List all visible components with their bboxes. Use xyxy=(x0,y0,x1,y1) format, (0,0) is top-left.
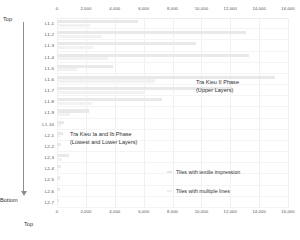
x-axis-tick-label: 0 xyxy=(56,209,58,214)
x-axis-tick-label: 8,000 xyxy=(167,6,178,11)
annotation-lower-phase: Tra Kieu Ia and Ib Phase (Lowest and Low… xyxy=(70,130,137,147)
x-axis-title: Top xyxy=(24,221,33,227)
y-axis-label-l2-7: L2-7 xyxy=(30,200,54,205)
gridline xyxy=(288,18,289,208)
y-axis-label-l1-9: L1-9 xyxy=(30,110,54,115)
bar-segment xyxy=(57,35,102,38)
bar-row xyxy=(57,197,288,208)
x-axis-tick-label: 10,000 xyxy=(195,6,208,11)
bar-segment xyxy=(57,180,58,183)
x-axis-bottom: 02,0004,0006,0008,00010,00012,00014,0001… xyxy=(57,209,288,219)
depth-arrow-icon xyxy=(23,22,24,192)
annotation-lower-line1: Tra Kieu Ia and Ib Phase xyxy=(70,130,137,138)
bar-row xyxy=(57,52,288,63)
x-axis-tick-label: 16,000 xyxy=(281,6,294,11)
plot-area xyxy=(57,18,288,208)
legend-label: Tiles with multiple lines xyxy=(176,188,230,194)
legend-swatch-icon xyxy=(167,171,172,173)
legend-item-textile-impression[interactable]: Tiles with textile impression xyxy=(167,169,240,175)
bar-segment xyxy=(57,68,77,71)
legend-label: Tiles with textile impression xyxy=(176,169,240,175)
x-axis-tick-label: 4,000 xyxy=(109,209,120,214)
x-axis-tick-label: 6,000 xyxy=(138,209,149,214)
y-axis-label-l1-2: L1-2 xyxy=(30,32,54,37)
x-axis-tick-label: 10,000 xyxy=(195,209,208,214)
y-axis-label-l1-4: L1-4 xyxy=(30,55,54,60)
bar-row xyxy=(57,63,288,74)
y-axis-label-l2-6: L2-6 xyxy=(30,189,54,194)
y-axis-label-l1-10: L1-10 xyxy=(30,122,54,127)
y-axis-label-l2-2: L2-2 xyxy=(30,144,54,149)
bar-segment xyxy=(57,57,108,60)
bar-row xyxy=(57,107,288,118)
bar-segment xyxy=(57,91,144,94)
bar-segment xyxy=(57,202,58,205)
y-axis-label-l2-4: L2-4 xyxy=(30,166,54,171)
bar-segment xyxy=(57,147,59,150)
y-axis-label-l1-5: L1-5 xyxy=(30,66,54,71)
y-axis-label-l2-3: L2-3 xyxy=(30,155,54,160)
horizontal-bar-chart: 02,0004,0006,0008,00010,00012,00014,0001… xyxy=(0,0,300,240)
x-axis-tick-label: 4,000 xyxy=(109,6,120,11)
x-axis-tick-label: 14,000 xyxy=(252,6,265,11)
annotation-upper-line2: (Upper Layers) xyxy=(196,86,239,94)
x-axis-top: 02,0004,0006,0008,00010,00012,00014,0001… xyxy=(57,6,288,16)
legend-swatch-icon xyxy=(167,190,172,192)
annotation-upper-line1: Tra Kieu II Phase xyxy=(196,78,239,86)
bar-row xyxy=(57,119,288,130)
x-axis-tick-label: 6,000 xyxy=(138,6,149,11)
bar-row xyxy=(57,96,288,107)
x-axis-tick-label: 14,000 xyxy=(252,209,265,214)
bar-row xyxy=(57,152,288,163)
bar-row xyxy=(57,174,288,185)
depth-top-label: Top xyxy=(3,16,12,22)
y-axis-label-l2-1: L2-1 xyxy=(30,133,54,138)
bar-row xyxy=(57,85,288,96)
x-axis-tick-label: 12,000 xyxy=(224,6,237,11)
x-axis-tick-label: 8,000 xyxy=(167,209,178,214)
bar-row xyxy=(57,29,288,40)
bar-segment xyxy=(57,24,90,27)
x-axis-tick-label: 2,000 xyxy=(80,209,91,214)
bar-row xyxy=(57,40,288,51)
bar-segment xyxy=(57,169,59,172)
bar-segment xyxy=(57,79,155,82)
depth-bottom-label: Bottom xyxy=(0,197,18,203)
y-axis-label-l1-3: L1-3 xyxy=(30,43,54,48)
x-axis-tick-label: 0 xyxy=(56,6,58,11)
y-axis-label-l1-6: L1-6 xyxy=(30,77,54,82)
annotation-lower-line2: (Lowest and Lower Layers) xyxy=(70,138,137,146)
y-axis-label-l2-5: L2-5 xyxy=(30,177,54,182)
bar-segment xyxy=(57,124,61,127)
annotation-upper-phase: Tra Kieu II Phase (Upper Layers) xyxy=(196,78,239,95)
y-axis-label-l1-8: L1-8 xyxy=(30,99,54,104)
bar-segment xyxy=(57,158,62,161)
legend-item-multiple-lines[interactable]: Tiles with multiple lines xyxy=(167,188,230,194)
x-axis-tick-label: 2,000 xyxy=(80,6,91,11)
row-baseline xyxy=(57,207,288,208)
bar-segment xyxy=(57,102,92,105)
bar-segment xyxy=(57,113,70,116)
bar-segment xyxy=(57,46,93,49)
bar-segment xyxy=(57,135,60,138)
x-axis-tick-label: 12,000 xyxy=(224,209,237,214)
bar-row xyxy=(57,74,288,85)
x-axis-tick-label: 16,000 xyxy=(281,209,294,214)
y-axis-label-l1-7: L1-7 xyxy=(30,88,54,93)
y-axis-label-l1-1: L1-1 xyxy=(30,21,54,26)
bar-segment xyxy=(57,191,58,194)
bar-row xyxy=(57,18,288,29)
